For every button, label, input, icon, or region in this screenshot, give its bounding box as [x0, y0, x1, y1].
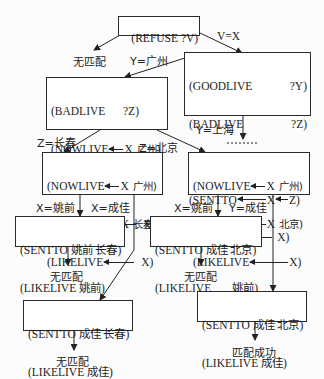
- left-arrow-icon: [109, 149, 123, 150]
- n7-line1: (SENTTO 成佳 长春): [28, 328, 129, 341]
- node-n6: (SENTTO 成佳 北京) (LIKELIVE姚前): [150, 216, 262, 247]
- left-arrow-icon: [105, 186, 119, 187]
- node-root-text: (REFUSE ?V): [131, 32, 198, 44]
- n6-line1: (SENTTO 成佳 北京): [155, 244, 258, 257]
- n4-sentto-city: 北京): [279, 218, 303, 231]
- n4-nowlive-city: 广州): [279, 180, 303, 193]
- n2-badlive-var: ?Z): [123, 105, 139, 118]
- node-n8: (SENTTO 成佳 北京) (LIKELIVE 成佳): [197, 291, 307, 322]
- n2-row-badlive: (BADLIVE?Z): [51, 105, 164, 118]
- n2-badlive-pred: (BADLIVE: [51, 105, 123, 118]
- outcome-no-match-n7: 无匹配: [56, 353, 89, 369]
- search-tree-diagram: (REFUSE ?V) (GOODLIVE?Y) (BADLIVE?Z) (NO…: [0, 0, 324, 379]
- edge-label-x-yaoqian-right: X=姚前: [174, 199, 213, 215]
- n3-nowlive-city: 广州): [133, 180, 157, 193]
- n1-row-goodlive: (GOODLIVE?Y): [189, 80, 307, 93]
- n8-line1: (SENTTO 成佳 北京): [202, 319, 303, 332]
- n3-row-nowlive: (NOWLIVEX广州): [47, 180, 159, 193]
- outcome-no-match-n6: 无匹配: [184, 268, 217, 284]
- n4-nowlive-x: X: [266, 180, 274, 193]
- edge-label-y-shanghai: Y=上海: [196, 121, 234, 137]
- node-n4: (NOWLIVEX广州) (SENTTOX北京) (LIKELIVEX): [188, 152, 310, 195]
- edge-label-z-changchun: Z=长春: [37, 134, 76, 150]
- n4-sentto-x: X: [267, 218, 275, 231]
- n3-likelive-x: X): [141, 256, 153, 269]
- left-arrow-icon: [251, 186, 265, 187]
- edge-label-v-eq-x: V=X: [217, 30, 240, 42]
- n3-nowlive-x: X: [120, 180, 128, 193]
- n3-nowlive-pred: (NOWLIVE: [47, 180, 104, 193]
- edge-label-x-yaoqian-left: X=姚前: [36, 199, 75, 215]
- outcome-no-match-root: 无匹配: [73, 53, 106, 69]
- node-n7: (SENTTO 成佳 长春) (LIKELIVE 成佳): [23, 300, 133, 331]
- edge-root-nomatch: [94, 35, 120, 50]
- node-n3: (NOWLIVEX广州) (SENTTOX长春) (LIKELIVEX): [42, 152, 163, 195]
- n4-row-nowlive: (NOWLIVEX广州): [193, 180, 306, 193]
- edge-label-y-guangzhou: Y=广州: [130, 52, 168, 68]
- node-n1: (GOODLIVE?Y) (BADLIVE?Z) (NOWLIVEXY) (SE…: [184, 52, 311, 116]
- node-n2: (BADLIVE?Z) (NOWLIVEX广州) (SENTTOXZ) (LIK…: [46, 77, 168, 130]
- node-n5: (SENTTO 姚前 长春) (LIKELIVE 姚前): [15, 216, 125, 247]
- outcome-no-match-n5: 无匹配: [50, 268, 83, 284]
- n4-likelive-x: X): [289, 256, 301, 269]
- edge-label-y-chengjia-right: Y=成佳: [229, 199, 267, 215]
- node-root: (REFUSE ?V): [118, 16, 200, 36]
- edge-label-x-chengjia-left: X=成佳: [91, 199, 130, 215]
- edge-label-z-beijing: Z=北京: [139, 139, 178, 155]
- n1-goodlive-var: ?Y): [290, 80, 307, 93]
- n4-nowlive-pred: (NOWLIVE: [193, 180, 250, 193]
- n1-goodlive-pred: (GOODLIVE: [189, 80, 269, 93]
- n5-line1: (SENTTO 姚前 长春): [20, 244, 121, 257]
- n1-badlive-var: ?Z): [291, 118, 307, 131]
- outcome-match-success: 匹配成功: [232, 344, 276, 360]
